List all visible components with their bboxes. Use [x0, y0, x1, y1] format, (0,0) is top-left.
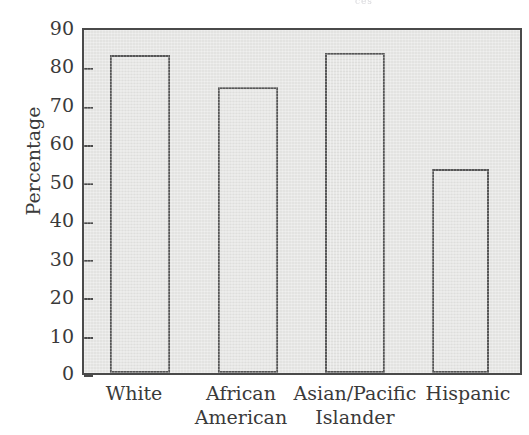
bar-texture	[327, 55, 383, 371]
y-tick-label: 10	[38, 327, 74, 346]
x-label-line1: Hispanic	[426, 382, 511, 404]
plot-area	[82, 28, 522, 375]
bar-texture	[434, 171, 487, 371]
x-label-hispanic: Hispanic	[412, 381, 524, 405]
y-tick-mark	[84, 145, 93, 147]
y-tick-mark	[84, 337, 93, 339]
x-label-white: White	[75, 381, 193, 405]
scan-artifact-text: ces	[355, 0, 475, 5]
x-label-line2: Islander	[285, 405, 425, 429]
y-tick-mark	[84, 375, 93, 377]
y-tick-label: 30	[38, 250, 74, 269]
bar-texture	[220, 89, 276, 371]
x-label-line1: African	[206, 382, 276, 404]
y-tick-label: 0	[38, 364, 74, 383]
y-axis-title: Percentage	[22, 86, 44, 236]
y-tick-mark	[84, 222, 93, 224]
bar-white	[110, 55, 170, 373]
x-label-asian-pacific-islander: Asian/Pacific Islander	[285, 381, 425, 429]
y-tick-mark	[84, 107, 93, 109]
x-label-line1: White	[106, 382, 163, 404]
y-tick-mark	[84, 298, 93, 300]
y-tick-label: 20	[38, 288, 74, 307]
y-tick-mark	[84, 68, 93, 70]
bar-african-american	[218, 87, 278, 373]
bar-texture	[112, 57, 168, 371]
bar-hispanic	[432, 169, 489, 373]
y-tick-mark	[84, 183, 93, 185]
bar-asian-pacific-islander	[325, 53, 385, 373]
y-tick-label: 80	[38, 57, 74, 76]
x-label-line2: American	[182, 405, 300, 429]
y-tick-mark	[84, 260, 93, 262]
x-label-line1: Asian/Pacific	[294, 382, 417, 404]
y-tick-label: 90	[38, 19, 74, 38]
x-label-african-american: African American	[182, 381, 300, 429]
